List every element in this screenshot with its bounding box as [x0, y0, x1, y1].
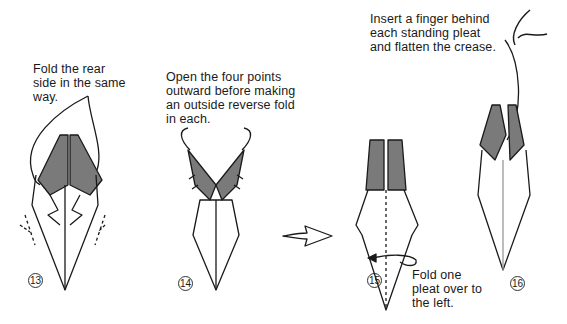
next-step-arrow-icon: [283, 226, 332, 246]
step-14-model: [181, 128, 250, 290]
step-15-model: [356, 140, 418, 310]
step-16-model: [478, 40, 530, 270]
diagram-artwork: [0, 0, 567, 324]
step-13-model: [20, 96, 105, 290]
finger-hand-icon: [513, 10, 547, 45]
